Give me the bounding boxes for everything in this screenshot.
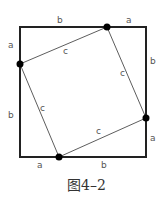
label-bottom-b: b [101,160,107,170]
label-inner-bottom-c: c [96,126,101,136]
label-inner-right-c: c [120,68,125,78]
label-right-b: b [150,56,156,66]
vertex-bottom [56,154,63,161]
outer-square [20,27,146,157]
vertex-right [143,115,150,122]
label-top-a: a [126,15,132,25]
inner-square [20,27,146,157]
vertex-top [104,24,111,31]
label-inner-top-c: c [63,46,68,56]
label-inner-left-c: c [40,103,45,113]
label-left-b: b [8,110,14,120]
pythagoras-diagram: b a a b b a a b c c c c 图4–2 [0,0,165,204]
label-bottom-a: a [37,160,43,170]
label-right-a: a [150,133,156,143]
label-top-b: b [57,15,63,25]
label-left-a: a [8,40,14,50]
vertex-left [17,61,24,68]
figure-caption: 图4–2 [67,177,106,193]
